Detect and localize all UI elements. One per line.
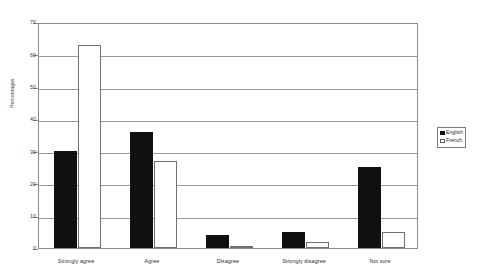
legend-label-french: French <box>446 138 462 143</box>
filled-square-icon <box>440 131 445 136</box>
y-axis-tick-label: 0 <box>33 246 36 251</box>
bar-english-agree <box>130 132 153 248</box>
y-axis-tick-label: 30 <box>30 150 36 155</box>
bar-english-not-sure <box>358 167 381 248</box>
bar-english-strongly-agree <box>54 151 77 248</box>
bar-chart: Percentages 010203040506070 Strongly agr… <box>0 0 490 279</box>
bar-french-strongly-agree <box>78 45 101 248</box>
open-square-icon <box>440 139 445 144</box>
bar-english-strongly-disagree <box>282 232 305 248</box>
x-axis-label: Not sure <box>340 258 420 264</box>
bar-french-agree <box>154 161 177 248</box>
legend-item-english: English <box>440 130 463 137</box>
y-axis-tick-label: 20 <box>30 182 36 187</box>
x-axis-label: Strongly agree <box>36 258 116 264</box>
legend-item-french: French <box>440 138 463 145</box>
x-axis-label: Disagree <box>188 258 268 264</box>
y-axis-tick-label: 10 <box>30 214 36 219</box>
y-axis-tick-label: 50 <box>30 85 36 90</box>
bar-french-not-sure <box>382 232 405 248</box>
bar-french-disagree <box>230 246 253 248</box>
bar-french-strongly-disagree <box>306 242 329 248</box>
x-axis-label: Agree <box>112 258 192 264</box>
legend: English French <box>437 127 466 148</box>
plot-area <box>38 23 418 249</box>
legend-label-english: English <box>446 130 463 135</box>
x-axis-label: Strongly disagree <box>264 258 344 264</box>
bar-english-disagree <box>206 235 229 248</box>
y-axis-tick-label: 70 <box>30 20 36 25</box>
y-axis-title: Percentages <box>10 78 15 108</box>
y-axis-tick-label: 60 <box>30 53 36 58</box>
y-axis-tick-label: 40 <box>30 117 36 122</box>
